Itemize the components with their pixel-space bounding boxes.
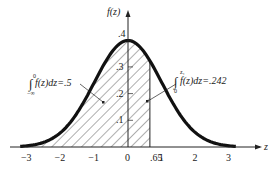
x-tick-label: −2: [55, 152, 66, 163]
x-ticks: −3−2−10.65123: [21, 152, 231, 163]
shaded-area-left: [20, 41, 128, 148]
x-tick-label: 2: [192, 152, 197, 163]
x-tick-label: −1: [88, 152, 99, 163]
y-tick-label: .4: [118, 28, 126, 39]
x-tick-label: −3: [21, 152, 32, 163]
y-tick-label: .3: [116, 61, 124, 72]
y-axis-arrow-icon: [126, 10, 131, 17]
x-tick-label: 0: [125, 152, 130, 163]
x-tick-label: 3: [226, 152, 231, 163]
ann1-text: f(z)dz=.5: [35, 77, 71, 89]
x-axis-label: z: [263, 141, 268, 152]
ann2-lower-limit: 0: [174, 88, 177, 94]
ann2-text: f(z)dz=.242: [180, 75, 226, 87]
x-tick-label: 1: [159, 152, 164, 163]
y-tick-label: .2: [116, 88, 124, 99]
y-axis-label: f(z): [107, 6, 121, 18]
ann1-lower-limit: −∞: [27, 90, 35, 96]
y-tick-label: .1: [116, 114, 124, 125]
normal-curve-chart: .1.2.3.4 −3−2−10.65123 f(z) z 0 ∫ f(z)dz…: [0, 0, 272, 169]
x-axis-arrow-icon: [255, 145, 262, 150]
